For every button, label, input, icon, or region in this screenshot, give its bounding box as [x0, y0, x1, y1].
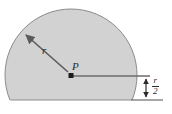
geometry-figure: r P r 2 [0, 0, 172, 114]
truncated-circle-shape [5, 9, 137, 114]
circle-body [5, 9, 137, 114]
radius-label: r [42, 45, 46, 56]
fraction-denominator: 2 [152, 87, 159, 96]
fraction: r 2 [152, 76, 159, 97]
half-radius-dimension-label: r 2 [152, 76, 159, 97]
figure-canvas [0, 0, 172, 114]
center-point-dot [69, 73, 74, 78]
fraction-numerator: r [152, 76, 159, 85]
center-point-label: P [72, 61, 79, 72]
